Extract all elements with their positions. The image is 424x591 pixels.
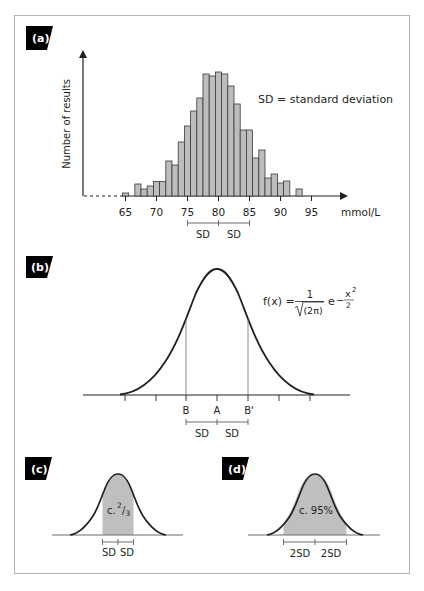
sd-label-right-c: SD (120, 547, 134, 558)
panel-a-label: (a) (32, 32, 49, 45)
sd-label-left: SD (196, 229, 210, 240)
y-axis-label: Number of results (61, 79, 72, 169)
svg-text:x: x (345, 288, 351, 299)
svg-text:c.: c. (107, 505, 116, 516)
figure: (a) Number of results (0, 0, 424, 591)
svg-text:2: 2 (352, 286, 356, 294)
svg-text:65: 65 (119, 206, 132, 218)
legend-sd-definition: SD = standard deviation (258, 93, 393, 106)
point-b-label: B (183, 405, 190, 416)
svg-text:95: 95 (305, 206, 318, 218)
svg-text:70: 70 (150, 206, 163, 218)
x-axis-unit: mmol/L (341, 206, 380, 218)
svg-text:3: 3 (126, 509, 131, 518)
area-label-d: c. 95% (299, 505, 333, 516)
svg-text:e: e (328, 295, 335, 308)
svg-text:(2π): (2π) (303, 305, 322, 316)
svg-text:−: − (336, 295, 344, 306)
point-a-label: A (214, 405, 221, 416)
2sd-label-right-d: 2SD (321, 548, 342, 559)
svg-text:f(x) =: f(x) = (263, 295, 295, 308)
point-b-prime-label: B' (244, 405, 254, 416)
panel-d-label: (d) (228, 463, 246, 476)
sd-label-left-c: SD (102, 547, 116, 558)
svg-text:85: 85 (243, 206, 256, 218)
sd-label-right-b: SD (225, 428, 239, 439)
svg-text:80: 80 (212, 206, 225, 218)
panel-c-label: (c) (31, 463, 48, 476)
2sd-label-left-d: 2SD (290, 548, 311, 559)
svg-text:90: 90 (274, 206, 287, 218)
svg-text:2: 2 (346, 301, 351, 310)
svg-text:75: 75 (181, 206, 194, 218)
sd-label-left-b: SD (195, 428, 209, 439)
svg-text:1: 1 (307, 289, 313, 300)
panel-b-label: (b) (31, 261, 49, 274)
sd-label-right: SD (227, 229, 241, 240)
